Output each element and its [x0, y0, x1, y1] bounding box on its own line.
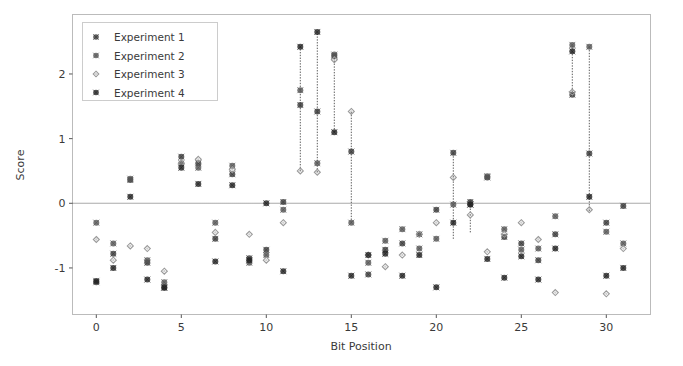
data-point-marker [93, 34, 99, 40]
data-point-marker [569, 48, 575, 54]
data-point-marker [552, 231, 558, 237]
data-point-marker [620, 265, 626, 271]
data-point-marker [365, 271, 371, 277]
data-point-marker [586, 194, 592, 200]
scatter-chart-figure: 051015202530 -1012 Bit Position Score Ex… [0, 0, 683, 366]
data-point-marker [93, 53, 99, 59]
data-point-marker [314, 29, 320, 35]
legend[interactable]: Experiment 1Experiment 2Experiment 3Expe… [83, 23, 218, 101]
data-point-marker [365, 260, 371, 266]
legend-item-label: Experiment 3 [114, 68, 185, 80]
data-point-marker [416, 246, 422, 252]
data-point-marker [535, 246, 541, 252]
data-point-marker [433, 236, 439, 242]
data-point-marker [297, 44, 303, 50]
data-point-marker [263, 247, 269, 253]
x-tick-label: 30 [599, 321, 613, 334]
data-point-marker [161, 284, 167, 290]
data-point-marker [297, 102, 303, 108]
data-point-marker [110, 251, 116, 257]
data-point-marker [127, 176, 133, 182]
data-point-marker [365, 252, 371, 258]
data-point-marker [484, 256, 490, 262]
data-point-marker [433, 284, 439, 290]
x-tick-label: 15 [344, 321, 358, 334]
data-point-marker [399, 240, 405, 246]
data-point-marker [603, 229, 609, 235]
data-point-marker [93, 220, 99, 226]
x-tick-label: 20 [429, 321, 443, 334]
data-point-marker [263, 200, 269, 206]
data-point-marker [416, 252, 422, 258]
data-point-marker [297, 87, 303, 93]
legend-item-label: Experiment 2 [114, 50, 185, 62]
data-point-marker [93, 90, 99, 96]
data-point-marker [348, 273, 354, 279]
data-point-marker [348, 220, 354, 226]
data-point-marker [586, 151, 592, 157]
data-point-marker [586, 44, 592, 50]
data-point-marker [144, 257, 150, 263]
data-point-marker [450, 202, 456, 208]
x-tick-label: 10 [259, 321, 273, 334]
data-point-marker [569, 42, 575, 48]
data-point-marker [450, 220, 456, 226]
y-tick-label: 0 [59, 197, 66, 210]
data-point-marker [127, 194, 133, 200]
data-point-marker [552, 213, 558, 219]
x-tick-label: 0 [93, 321, 100, 334]
data-point-marker [433, 207, 439, 213]
data-point-marker [450, 150, 456, 156]
legend-item-label: Experiment 1 [114, 31, 185, 43]
data-point-marker [195, 165, 201, 171]
data-point-marker [110, 240, 116, 246]
data-point-marker [178, 165, 184, 171]
data-point-marker [484, 173, 490, 179]
data-point-marker [178, 154, 184, 160]
data-point-marker [382, 251, 388, 257]
data-point-marker [110, 265, 116, 271]
data-point-marker [280, 268, 286, 274]
data-point-marker [246, 257, 252, 263]
data-point-marker [229, 163, 235, 169]
data-point-marker [603, 220, 609, 226]
data-point-marker [518, 253, 524, 259]
data-point-marker [518, 240, 524, 246]
data-point-marker [535, 257, 541, 263]
data-point-marker [280, 199, 286, 205]
y-axis-label: Score [14, 149, 27, 180]
data-point-marker [348, 149, 354, 155]
data-point-marker [399, 273, 405, 279]
x-tick-label: 5 [178, 321, 185, 334]
x-tick-label: 25 [514, 321, 528, 334]
data-point-marker [161, 279, 167, 285]
y-tick-label: 2 [59, 68, 66, 81]
data-point-marker [280, 207, 286, 213]
y-tick-label: 1 [59, 133, 66, 146]
data-point-marker [331, 129, 337, 135]
data-point-marker [314, 160, 320, 166]
data-point-marker [467, 202, 473, 208]
data-point-marker [195, 181, 201, 187]
plot-svg: 051015202530 -1012 Bit Position Score Ex… [0, 0, 683, 366]
data-point-marker [399, 226, 405, 232]
data-point-marker [212, 220, 218, 226]
legend-item-label: Experiment 4 [114, 87, 185, 99]
x-axis-label: Bit Position [330, 340, 391, 353]
data-point-marker [314, 108, 320, 114]
data-point-marker [603, 273, 609, 279]
data-point-marker [518, 247, 524, 253]
data-point-marker [212, 236, 218, 242]
data-point-marker [620, 203, 626, 209]
data-point-marker [144, 277, 150, 283]
data-point-marker [212, 258, 218, 264]
y-tick-label: -1 [55, 262, 66, 275]
data-point-marker [552, 246, 558, 252]
data-point-marker [501, 275, 507, 281]
data-point-marker [93, 278, 99, 284]
data-point-marker [382, 238, 388, 244]
data-point-marker [535, 277, 541, 283]
data-point-marker [229, 182, 235, 188]
